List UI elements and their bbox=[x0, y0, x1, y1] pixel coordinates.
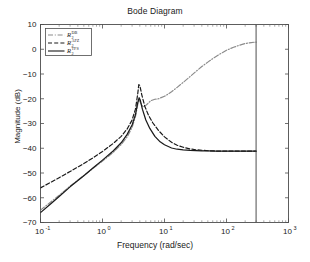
svg-text:R: R bbox=[66, 39, 71, 46]
svg-text:10: 10 bbox=[283, 227, 292, 236]
x-tick-label: 100 bbox=[97, 225, 111, 236]
svg-text:10: 10 bbox=[221, 227, 230, 236]
legend: R2DBR2AFZR2TFS bbox=[46, 29, 92, 56]
svg-text:2: 2 bbox=[232, 225, 235, 231]
y-tick-label: −10 bbox=[23, 70, 37, 79]
chart-title: Bode Diagram bbox=[0, 6, 310, 16]
svg-text:-1: -1 bbox=[46, 225, 51, 231]
svg-text:2: 2 bbox=[72, 51, 74, 56]
x-axis-label: Frequency (rad/sec) bbox=[0, 240, 310, 250]
x-tick-label: 101 bbox=[159, 225, 173, 236]
bode-diagram-figure: Bode Diagram Magnitude (dB) 100−10−20−30… bbox=[0, 0, 310, 262]
svg-text:AFZ: AFZ bbox=[72, 38, 80, 43]
svg-text:TFS: TFS bbox=[72, 46, 80, 51]
svg-text:10: 10 bbox=[35, 227, 44, 236]
y-tick-label: 0 bbox=[32, 45, 37, 54]
svg-text:1: 1 bbox=[170, 225, 173, 231]
svg-text:10: 10 bbox=[97, 227, 106, 236]
x-tick-label: 103 bbox=[283, 225, 297, 236]
y-tick-label: −50 bbox=[23, 169, 37, 178]
svg-text:10: 10 bbox=[159, 227, 168, 236]
y-tick-label: −30 bbox=[23, 119, 37, 128]
svg-text:0: 0 bbox=[108, 225, 111, 231]
svg-text:DB: DB bbox=[72, 30, 78, 35]
plot-canvas: 100−10−20−30−40−50−60−7010-1100101102103… bbox=[0, 0, 310, 262]
x-tick-label: 102 bbox=[221, 225, 235, 236]
svg-text:R: R bbox=[66, 31, 71, 38]
y-tick-label: −40 bbox=[23, 144, 37, 153]
svg-text:R: R bbox=[66, 47, 71, 54]
y-tick-label: −20 bbox=[23, 95, 37, 104]
y-axis-label: Magnitude (dB) bbox=[13, 62, 22, 172]
x-tick-label: 10-1 bbox=[35, 225, 50, 236]
svg-text:3: 3 bbox=[294, 225, 297, 231]
y-tick-label: −60 bbox=[23, 194, 37, 203]
y-tick-label: 10 bbox=[28, 20, 37, 29]
